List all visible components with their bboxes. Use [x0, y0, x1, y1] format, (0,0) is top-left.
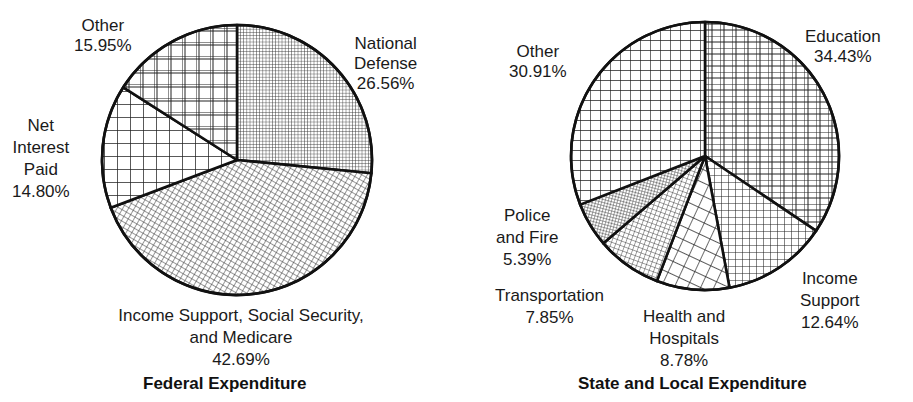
pie-slice-national-defense — [237, 25, 372, 173]
label-value: 30.91% — [509, 62, 567, 82]
label-federal-other: Other 15.95% — [74, 16, 132, 56]
label-state-other: Other 30.91% — [509, 42, 567, 82]
state-local-chart-title: State and Local Expenditure — [578, 374, 807, 394]
label-state-transportation: Transportation 7.85% — [495, 285, 604, 329]
label-line: Defense — [354, 54, 417, 74]
label-line: Net — [12, 115, 70, 137]
federal-chart-title: Federal Expenditure — [143, 374, 306, 394]
label-value: 5.39% — [496, 249, 558, 271]
label-line: Income Support, Social Security, — [96, 305, 386, 327]
label-value: 12.64% — [800, 312, 860, 334]
label-federal-income-support: Income Support, Social Security, and Med… — [96, 305, 386, 371]
label-value: 8.78% — [643, 350, 725, 372]
label-state-education: Education 34.43% — [805, 27, 881, 67]
label-federal-national-defense: National Defense 26.56% — [354, 34, 417, 94]
label-value: 26.56% — [354, 74, 417, 94]
state-local-pie — [571, 22, 839, 290]
label-value: 14.80% — [12, 181, 70, 203]
label-line: National — [354, 34, 417, 54]
label-line: Education — [805, 27, 881, 47]
label-federal-net-interest: Net Interest Paid 14.80% — [12, 115, 70, 203]
label-line: Transportation — [495, 285, 604, 307]
label-value: 34.43% — [805, 47, 881, 67]
label-line: Interest — [12, 137, 70, 159]
label-value: 7.85% — [495, 307, 604, 329]
label-line: Hospitals — [643, 328, 725, 350]
label-line: Paid — [12, 159, 70, 181]
label-state-health: Health and Hospitals 8.78% — [643, 306, 725, 372]
label-line: Support — [800, 290, 860, 312]
label-line: Other — [74, 16, 132, 36]
label-line: Income — [800, 268, 860, 290]
federal-pie — [102, 25, 372, 295]
label-line: Other — [509, 42, 567, 62]
label-state-police-fire: Police and Fire 5.39% — [496, 205, 558, 271]
label-line: Police — [496, 205, 558, 227]
label-line: Health and — [643, 306, 725, 328]
label-state-income-support: Income Support 12.64% — [800, 268, 860, 334]
label-value: 15.95% — [74, 36, 132, 56]
label-line: and Medicare — [96, 327, 386, 349]
label-value: 42.69% — [96, 349, 386, 371]
label-line: and Fire — [496, 227, 558, 249]
